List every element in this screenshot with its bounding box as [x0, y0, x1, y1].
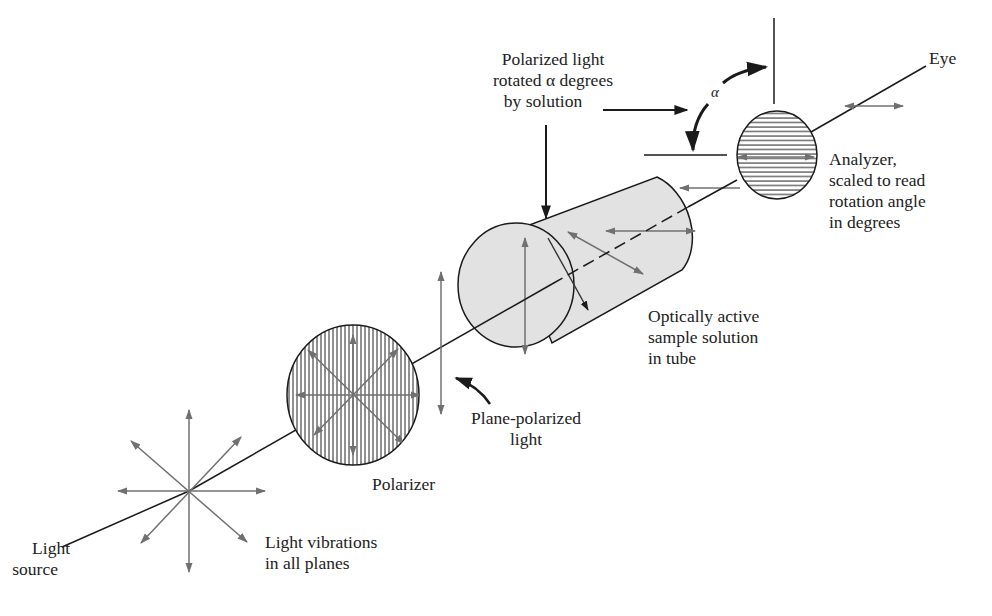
- light-vibrations-line-2: in all planes: [265, 553, 377, 574]
- plane-polarized-label: Plane-polarized light: [466, 408, 586, 450]
- analyzer-label: Analyzer, scaled to read rotation angle …: [829, 149, 926, 233]
- sample-line-2: sample solution: [648, 327, 759, 348]
- sample-line-3: in tube: [648, 348, 759, 369]
- light-vibrations-line-1: Light vibrations: [265, 532, 377, 553]
- plane-polarized-line-2: light: [466, 429, 586, 450]
- analyzer-line-3: rotation angle: [829, 191, 926, 212]
- light-source-label: Light source: [10, 538, 68, 580]
- rotated-line-1: Polarized light: [478, 49, 628, 70]
- rotated-line-2: rotated α degrees: [478, 70, 628, 91]
- rotated-line-3: by solution: [458, 91, 628, 112]
- light-vibrations-label: Light vibrations in all planes: [265, 532, 377, 574]
- analyzer-line-4: in degrees: [829, 212, 926, 233]
- light-source-line-1: Light: [10, 538, 70, 559]
- eye-label: Eye: [929, 48, 956, 69]
- alpha-symbol: α: [711, 82, 719, 103]
- light-vibrations-star: [118, 410, 265, 572]
- sample-line-1: Optically active: [648, 306, 759, 327]
- analyzer-line-2: scaled to read: [829, 170, 926, 191]
- polarizer-disc: [287, 325, 420, 465]
- plane-polarized-line-1: Plane-polarized: [466, 408, 586, 429]
- plane-polarized-pointer: [456, 378, 490, 404]
- polarizer-label: Polarizer: [372, 474, 435, 495]
- rotated-label: Polarized light rotated α degrees by sol…: [478, 49, 628, 112]
- light-source-line-2: source: [10, 559, 58, 580]
- analyzer-line-1: Analyzer,: [829, 149, 926, 170]
- sample-label: Optically active sample solution in tube: [648, 306, 759, 369]
